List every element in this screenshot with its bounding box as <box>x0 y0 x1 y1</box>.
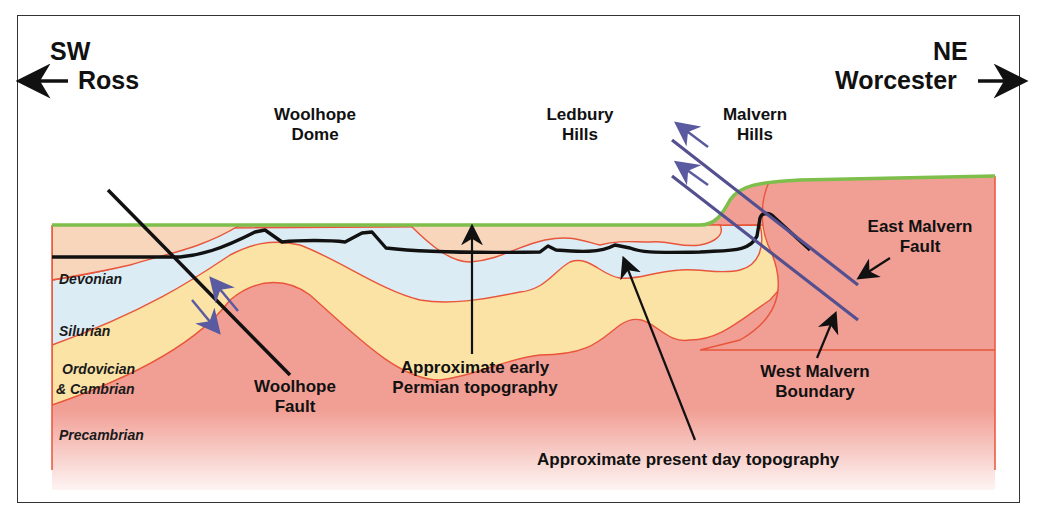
ne-label: NE <box>933 37 968 67</box>
ordovician-label: Ordovician <box>62 361 135 378</box>
malvern-hills-label: Malvern Hills <box>705 105 805 145</box>
worcester-label: Worcester <box>835 66 957 96</box>
sw-label: SW <box>50 37 90 67</box>
woolhope-fault-label: Woolhope Fault <box>240 377 350 417</box>
ross-label: Ross <box>78 66 139 96</box>
cambrian-label: & Cambrian <box>56 381 135 398</box>
malvern-motion-arrow-2 <box>680 165 708 185</box>
east-malvern-fault-label: East Malvern Fault <box>855 217 985 257</box>
present-day-topography-label: Approximate present day topography <box>537 450 839 470</box>
ledbury-hills-label: Ledbury Hills <box>530 105 630 145</box>
silurian-label: Silurian <box>59 323 110 340</box>
woolhope-dome-label: Woolhope Dome <box>265 105 365 145</box>
devonian-label: Devonian <box>59 271 122 288</box>
permian-topography-label: Approximate early Permian topography <box>365 358 585 398</box>
precambrian-label: Precambrian <box>59 427 144 444</box>
bottom-fade <box>50 410 1000 500</box>
west-malvern-boundary-label: West Malvern Boundary <box>750 362 880 402</box>
malvern-motion-arrow-1 <box>680 126 708 147</box>
